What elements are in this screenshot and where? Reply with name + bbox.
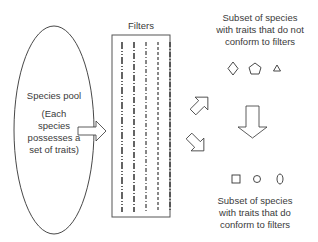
nonconform-line-2: with traits that do not	[205, 24, 315, 36]
arrow-down-right-icon	[183, 130, 211, 158]
conform-line-1: Subset of species	[200, 195, 310, 207]
filters-label: Filters	[112, 20, 170, 32]
pool-note-4: set of traits)	[14, 144, 94, 156]
nonconform-line-3: conform to filters	[205, 36, 315, 48]
circle-shape-icon	[254, 176, 261, 183]
filters-box	[112, 35, 170, 217]
pool-note-2: species	[14, 120, 94, 132]
triangle-shape-icon	[274, 65, 281, 71]
diamond-shape-icon	[228, 62, 238, 75]
nonconform-line-1: Subset of species	[205, 12, 315, 24]
conform-line-2: with traits that do	[200, 207, 310, 219]
square-shape-icon	[232, 175, 240, 183]
pool-note-3: possesses a	[14, 132, 94, 144]
arrow-down-icon	[238, 106, 267, 138]
conform-line-3: conform to filters	[200, 219, 310, 231]
oval-shape-icon	[277, 174, 283, 184]
pool-note-1: (Each	[14, 108, 94, 120]
arrow-up-right-icon	[187, 91, 215, 119]
pool-title: Species pool	[14, 90, 94, 102]
pentagon-shape-icon	[249, 63, 261, 74]
